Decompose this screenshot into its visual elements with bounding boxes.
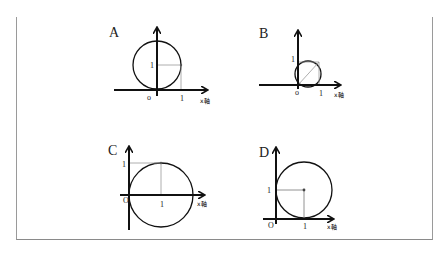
point-c	[160, 162, 162, 164]
panel-d: D 1 O 1 x軸	[259, 145, 337, 231]
diagram-canvas: A 1 o 1 x軸 B 1 o 1 x軸 C 1 O 1 x軸	[0, 0, 447, 253]
center-point-d	[303, 189, 306, 192]
origin-a: o	[147, 93, 151, 102]
y-tick-a: 1	[150, 61, 154, 70]
point-a	[180, 64, 182, 66]
panel-b: B 1 o 1 x軸	[259, 26, 344, 99]
x-tick-b: 1	[319, 89, 323, 98]
x-axis-label-a: x軸	[200, 97, 210, 105]
origin-b: o	[295, 88, 299, 97]
x-axis-label-c: x軸	[197, 200, 207, 208]
origin-d: O	[268, 221, 274, 230]
y-tick-d: 1	[267, 186, 271, 195]
x-axis-label-b: x軸	[334, 91, 344, 99]
origin-c: O	[123, 196, 129, 205]
y-tick-b: 1	[291, 55, 295, 64]
x-tick-c: 1	[160, 200, 164, 209]
panel-label-c: C	[108, 143, 117, 158]
x-tick-d: 1	[303, 222, 307, 231]
panel-a: A 1 o 1 x軸	[109, 25, 210, 105]
panel-label-d: D	[259, 145, 269, 160]
x-tick-a: 1	[180, 94, 184, 103]
guide-diagonal-b	[298, 62, 319, 85]
panel-label-b: B	[259, 26, 268, 41]
panel-c: C 1 O 1 x軸	[108, 143, 207, 230]
x-axis-label-d: x軸	[327, 223, 337, 231]
panel-label-a: A	[109, 25, 120, 40]
y-tick-c: 1	[122, 160, 126, 169]
